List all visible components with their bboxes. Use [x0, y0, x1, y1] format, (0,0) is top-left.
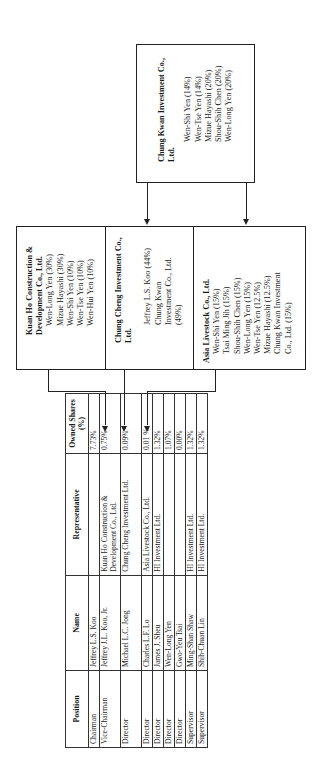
cell-position: Director	[163, 671, 174, 748]
cell-position: Director	[141, 671, 152, 748]
cell-representative: Chung Cheng Investment Ltd.	[120, 453, 141, 575]
box-member: Shou-Shih Chen (20%)	[214, 50, 224, 162]
ownership-diagram: Position Name Representative Owned Share…	[0, 0, 314, 772]
box-member: Wen-Long Yen (15%)	[243, 270, 253, 363]
cell-shares: 1.32%	[185, 394, 196, 454]
cell-position: Director	[174, 671, 185, 748]
cell-representative	[174, 453, 185, 575]
box-member: Chung Kwan Investment Co., Ltd. (49%)	[154, 249, 185, 343]
cell-representative	[89, 453, 100, 575]
connector-chungcheng	[124, 370, 125, 425]
table-row: Director Charles L.F. Lo Asia Livestock …	[141, 394, 152, 748]
box-member: Wen-Shi Yen (10%)	[66, 235, 76, 335]
table-row: Supervisor Ming-Shan Shaw HI Investment …	[185, 394, 196, 748]
box-asia-livestock: Asia Livestock Co., Ltd. Wen-Shi Yen (15…	[193, 226, 306, 370]
table-row: Chairman Jeffrey L.S. Koo 7.73%	[89, 394, 100, 748]
cell-name: Michael L.C. Jong	[120, 575, 141, 670]
cell-position: Supervisor	[196, 671, 207, 748]
table-row: Director Gwo-Yeu Tsai 0.00%	[174, 394, 185, 748]
cell-representative: Kuan Ho Construction & Development Co., …	[99, 453, 120, 575]
box-member: Mizue Hayashi (12.5%)	[263, 270, 273, 363]
table-row: Director Michael L.C. Jong Chung Cheng I…	[120, 394, 141, 748]
arrow-head-icon	[243, 219, 249, 225]
cell-position: Director	[152, 671, 163, 748]
arrow-head-icon	[144, 219, 150, 225]
cell-name: Charles L.F. Lo	[141, 575, 152, 670]
box-member: Wen-Long Yen (20%)	[224, 50, 234, 162]
cell-representative: HI Investment Ltd.	[152, 453, 163, 575]
box-member: Wen-Shi Yen (15%)	[212, 270, 222, 363]
box-title: Chung Kwan Investment Co., Ltd.	[157, 50, 177, 162]
box-member: Mizue Hayashi (20%)	[204, 50, 214, 162]
header-representative: Representative	[66, 453, 89, 575]
box-member: Tsai Ming Jih (15%)	[222, 270, 232, 363]
connector-kuanho	[105, 391, 106, 425]
cell-position: Vice-Chairman	[99, 671, 120, 748]
cell-name: Jeffrey L.S. Koo	[89, 575, 100, 670]
box-member: Shou-Shih Chen (15%)	[233, 270, 243, 363]
box-member: Mizue Hayashi (30%)	[56, 235, 66, 335]
box-title: Asia Livestock Co., Ltd.	[202, 270, 212, 363]
box-member: Wen-Tse Yen (10%)	[76, 235, 86, 335]
table-row: Director James J. Sheu HI Investment Ltd…	[152, 394, 163, 748]
box-member: Wen-Long Yen (30%)	[45, 235, 55, 335]
table-header-row: Position Name Representative Owned Share…	[66, 394, 89, 748]
table-row: Vice-Chairman Jeffrey J.L. Koo, Jr. Kuan…	[99, 394, 120, 748]
cell-name: Ming-Shan Shaw	[185, 575, 196, 670]
header-position: Position	[66, 671, 89, 748]
table-row: Director Wen-Long Yen 1.07%	[163, 394, 174, 748]
arrow-head-icon	[121, 426, 127, 432]
box-kuan-ho: Kuan Ho Construction & Development Co., …	[16, 226, 106, 370]
arrow-head-icon	[144, 426, 150, 432]
cell-position: Chairman	[89, 671, 100, 748]
cell-representative: Asia Livestock Co., Ltd.	[141, 453, 152, 575]
cell-position: Supervisor	[185, 671, 196, 748]
box-title: Chung Cheng Investment Co., Ltd.	[114, 231, 134, 343]
box-member: Wen-Tse Yen (14%)	[194, 50, 204, 162]
cell-shares: 1.32%	[152, 394, 163, 454]
cell-name: Gwo-Yeu Tsai	[174, 575, 185, 670]
board-table: Position Name Representative Owned Share…	[65, 393, 208, 748]
cell-shares: 1.32%	[196, 394, 207, 454]
arrow-head-icon	[102, 426, 108, 432]
box-title: Kuan Ho Construction & Development Co., …	[25, 235, 45, 335]
cell-position: Director	[120, 671, 141, 748]
connector-kuanho	[48, 391, 105, 392]
cell-shares: 0.00%	[174, 394, 185, 454]
header-name: Name	[66, 575, 89, 670]
box-member: Wen-Shi Yen (14%)	[183, 50, 193, 162]
cell-shares: 0.75%	[99, 394, 120, 454]
box-chung-kwan: Chung Kwan Investment Co., Ltd. Wen-Shi …	[136, 44, 255, 183]
table-row: Supervisor Shih-Chuan Lin HI Investment …	[196, 394, 207, 748]
cell-name: James J. Sheu	[152, 575, 163, 670]
cell-shares: 7.73%	[89, 394, 100, 454]
box-member: Wen-Tse Yen (12.5%)	[253, 270, 263, 363]
cell-shares: 1.07%	[163, 394, 174, 454]
box-member: Chung Kwan Investment Co., Ltd. (15%)	[273, 270, 293, 363]
cell-representative	[163, 453, 174, 575]
cell-representative: HI Investment Ltd.	[196, 453, 207, 575]
cell-name: Jeffrey J.L. Koo, Jr.	[99, 575, 120, 670]
box-member: Jeffrey L.S. Koo (44%)	[143, 231, 153, 343]
connector-asialivestock	[215, 370, 216, 392]
cell-name: Wen-Long Yen	[163, 575, 174, 670]
box-member: Wen-Hui Yen (10%)	[86, 235, 96, 335]
cell-name: Shih-Chuan Lin	[196, 575, 207, 670]
connector-asialivestock	[147, 391, 148, 425]
header-owned-shares: Owned Shares (%)	[66, 394, 89, 454]
cell-representative: HI Investment Ltd.	[185, 453, 196, 575]
box-chung-cheng: Chung Cheng Investment Co., Ltd. Jeffrey…	[105, 226, 194, 370]
connector-asialivestock	[147, 391, 216, 392]
connector-kuanho	[48, 370, 49, 392]
